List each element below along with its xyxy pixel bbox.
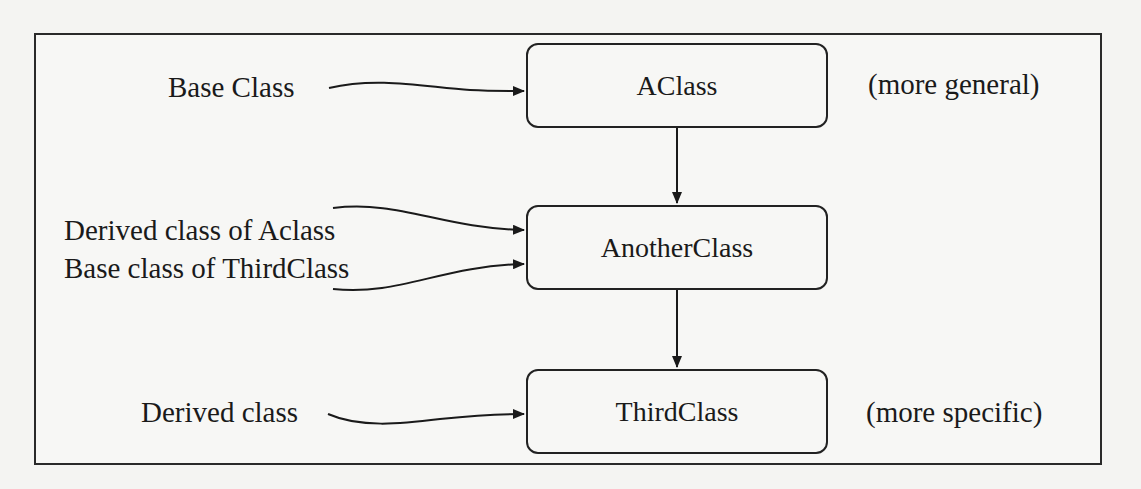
- arrow-derived-class: [328, 414, 524, 424]
- arrow-base-of-thirdclass: [333, 264, 524, 290]
- connectors: [0, 0, 1141, 489]
- arrow-derived-of-aclass: [333, 207, 524, 230]
- arrow-base-class: [329, 83, 524, 91]
